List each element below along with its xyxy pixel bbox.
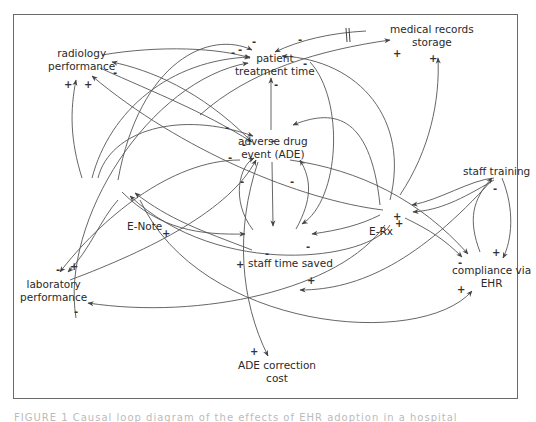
polarity-mark: - (242, 140, 246, 150)
polarity-mark: - (74, 307, 78, 317)
polarity-mark: + (393, 212, 401, 222)
polarity-mark: - (458, 258, 462, 268)
delay-mark (346, 28, 350, 42)
node-laboratory-performance: laboratory performance (20, 278, 87, 304)
polarity-mark: - (113, 68, 117, 78)
polarity-mark: - (225, 123, 229, 133)
node-ade-correction-cost: ADE correction cost (238, 359, 316, 385)
polarity-mark: - (231, 48, 235, 58)
polarity-mark: - (274, 80, 278, 90)
polarity-mark: + (457, 285, 465, 295)
polarity-mark: - (238, 45, 242, 55)
polarity-mark: + (250, 347, 258, 357)
node-medical-records-storage: medical records storage (390, 23, 474, 49)
polarity-mark: - (290, 177, 294, 187)
figure-caption: FIGURE 1 Causal loop diagram of the effe… (14, 412, 524, 422)
polarity-mark: + (70, 262, 78, 272)
polarity-mark: - (265, 249, 269, 259)
polarity-mark: - (240, 177, 244, 187)
polarity-mark: + (64, 80, 72, 90)
polarity-mark: + (307, 276, 315, 286)
polarity-mark: - (56, 265, 60, 275)
polarity-mark: + (236, 260, 244, 270)
polarity-mark: + (429, 54, 437, 64)
polarity-mark: - (228, 153, 232, 163)
polarity-mark: - (271, 136, 275, 146)
polarity-mark: - (303, 59, 307, 69)
polarity-mark: - (298, 35, 302, 45)
polarity-mark: - (493, 184, 497, 194)
node-e-rx: E-Rx (369, 225, 393, 238)
node-staff-time-saved: staff time saved (248, 257, 333, 270)
polarity-mark: + (492, 248, 500, 258)
node-staff-training: staff training (463, 165, 530, 178)
polarity-mark: - (252, 37, 256, 47)
polarity-mark: + (162, 229, 170, 239)
polarity-mark: + (84, 80, 92, 90)
polarity-mark: - (306, 242, 310, 252)
node-radiology-performance: radiology performance (48, 47, 115, 73)
node-e-note: E-Note (127, 220, 162, 233)
polarity-mark: + (393, 49, 401, 59)
